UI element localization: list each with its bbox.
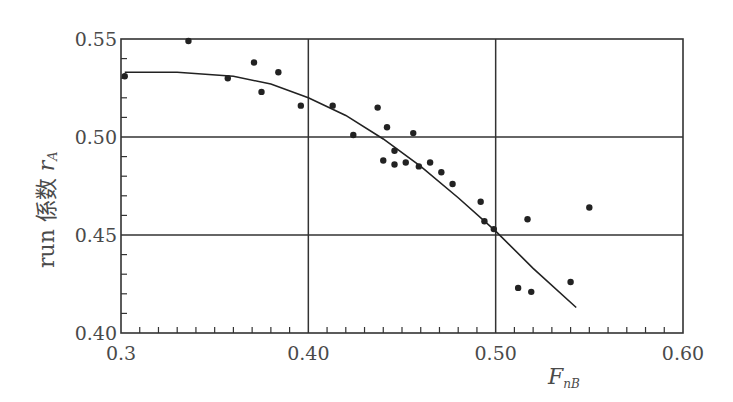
data-point bbox=[524, 216, 530, 222]
data-point bbox=[491, 226, 497, 232]
data-point bbox=[185, 38, 191, 44]
y-tick-label: 0.40 bbox=[75, 322, 117, 344]
data-point bbox=[298, 102, 304, 108]
y-tick-label: 0.55 bbox=[75, 28, 117, 50]
y-axis-title: run 係数 rA bbox=[34, 151, 60, 268]
data-point bbox=[515, 285, 521, 291]
data-point bbox=[449, 181, 455, 187]
data-point bbox=[410, 130, 416, 136]
data-point bbox=[374, 104, 380, 110]
data-point bbox=[528, 289, 534, 295]
data-point bbox=[586, 204, 592, 210]
data-point bbox=[384, 124, 390, 130]
data-point bbox=[416, 163, 422, 169]
plot-frame bbox=[121, 39, 683, 333]
data-point bbox=[329, 102, 335, 108]
data-point bbox=[225, 75, 231, 81]
data-point bbox=[481, 218, 487, 224]
chart: 0.30.400.500.60 0.400.450.500.55 FnB run… bbox=[0, 0, 733, 402]
x-tick-labels: 0.30.400.500.60 bbox=[106, 342, 704, 364]
data-point bbox=[391, 148, 397, 154]
x-tick-label: 0.60 bbox=[662, 342, 704, 364]
data-point bbox=[403, 159, 409, 165]
data-point bbox=[251, 59, 257, 65]
x-axis-title: FnB bbox=[547, 364, 580, 391]
y-tick-label: 0.50 bbox=[75, 126, 117, 148]
data-point bbox=[391, 161, 397, 167]
data-point bbox=[427, 159, 433, 165]
data-point bbox=[350, 132, 356, 138]
y-tick-labels: 0.400.450.500.55 bbox=[75, 28, 117, 344]
y-tick-label: 0.45 bbox=[75, 224, 117, 246]
data-point bbox=[380, 157, 386, 163]
data-point bbox=[438, 169, 444, 175]
fit-curve bbox=[125, 72, 576, 307]
data-point bbox=[122, 73, 128, 79]
x-tick-label: 0.50 bbox=[475, 342, 517, 364]
data-point bbox=[477, 198, 483, 204]
data-point bbox=[275, 69, 281, 75]
x-tick-label: 0.3 bbox=[106, 342, 136, 364]
data-point bbox=[567, 279, 573, 285]
grid-lines bbox=[121, 39, 683, 333]
minor-ticks bbox=[121, 59, 664, 333]
data-point bbox=[258, 89, 264, 95]
x-tick-label: 0.40 bbox=[287, 342, 329, 364]
